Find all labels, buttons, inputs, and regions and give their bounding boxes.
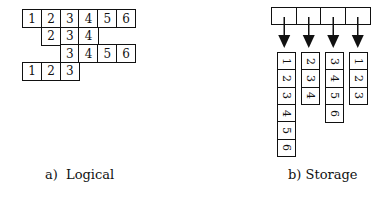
storage-cell: 3 — [349, 87, 368, 106]
arrow-down-icon — [327, 35, 339, 48]
arrow-down-icon — [352, 35, 364, 48]
arrow-down-icon — [278, 35, 290, 48]
storage-caption: b) Storage — [288, 167, 357, 182]
storage-cell: 6 — [325, 104, 344, 123]
storage-cell: 1 — [277, 52, 296, 71]
storage-cell: 4 — [277, 104, 296, 123]
storage-cell: 2 — [349, 69, 368, 88]
arrow-down-icon — [303, 35, 315, 48]
logical-caption: a) Logical — [45, 167, 114, 182]
storage-cell: 3 — [325, 52, 344, 71]
storage-cell: 4 — [301, 87, 320, 106]
storage-cell: 2 — [301, 52, 320, 71]
storage-cell: 5 — [277, 121, 296, 140]
storage-cell: 4 — [325, 69, 344, 88]
storage-cell: 3 — [277, 87, 296, 106]
storage-cell: 1 — [349, 52, 368, 71]
storage-cell: 5 — [325, 87, 344, 106]
storage-cell: 6 — [277, 139, 296, 158]
storage-cell: 2 — [277, 69, 296, 88]
storage-cell: 3 — [301, 69, 320, 88]
